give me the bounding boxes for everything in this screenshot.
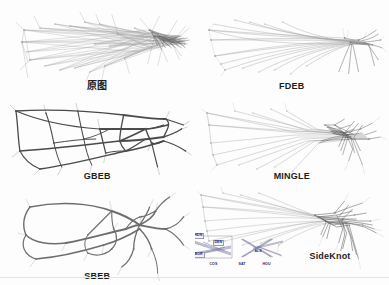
- graph-sbeb: [0, 185, 195, 285]
- panel-label-mingle: MINGLE: [195, 172, 389, 181]
- panel-sbeb[interactable]: SBEB: [0, 185, 195, 285]
- panel-gbeb[interactable]: GBEB: [0, 95, 195, 185]
- graph-sideknot: [195, 185, 389, 285]
- panel-label-sideknot: SideKnot: [295, 252, 365, 261]
- figure-canvas: 原图: [0, 0, 389, 285]
- panel-sideknot[interactable]: HDN DEN BGR COS ALS SAT HOU SideKnot: [195, 185, 389, 285]
- panel-label-gbeb: GBEB: [0, 172, 195, 181]
- panel-label-fdeb: FDEB: [195, 82, 389, 91]
- panel-label-original: 原图: [0, 81, 195, 91]
- panel-fdeb[interactable]: FDEB: [195, 0, 389, 95]
- panel-mingle[interactable]: MINGLE: [195, 95, 389, 185]
- bottom-divider: [0, 277, 389, 278]
- panel-grid: 原图: [0, 0, 389, 285]
- panel-original[interactable]: 原图: [0, 0, 195, 95]
